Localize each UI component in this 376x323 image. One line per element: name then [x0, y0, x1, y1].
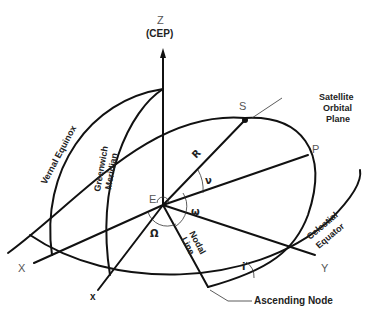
nu-symbol: ν [205, 175, 212, 186]
cep-label: (CEP) [146, 28, 173, 39]
z-label: Z [157, 14, 164, 26]
radius-line [163, 120, 245, 205]
raan-symbol: Ω [150, 228, 159, 239]
ascending-node-label: Ascending Node [254, 295, 333, 306]
nu-arc [198, 170, 203, 193]
orbital-plane-leader [252, 98, 282, 118]
satellite-label: S [239, 100, 246, 112]
greenwich-meridian [106, 89, 163, 275]
earth-label: E [149, 193, 156, 205]
x-label: X [18, 262, 26, 274]
satellite-orbital-plane [8, 118, 315, 287]
orbital-plane-label-2: Orbital [323, 103, 352, 113]
x-small-label: x [90, 291, 96, 302]
satellite-point [242, 117, 248, 123]
x-axis [34, 205, 163, 263]
orbital-plane-label-3: Plane [326, 114, 350, 124]
ascending-node-leader [210, 290, 252, 301]
radius-symbol: R [190, 147, 203, 160]
orbital-elements-diagram: Z (CEP) X Y x E S P Vernal Equinox Green… [0, 0, 376, 323]
orbital-plane-label-1: Satellite [319, 92, 354, 102]
z-axis-arrow-icon [160, 48, 166, 58]
omega-symbol: ω [191, 206, 200, 217]
inclination-symbol: i [242, 261, 245, 272]
perigee-line [163, 155, 308, 205]
celestial-equator [30, 170, 360, 275]
perigee-label: P [312, 143, 319, 155]
y-label: Y [321, 262, 329, 274]
